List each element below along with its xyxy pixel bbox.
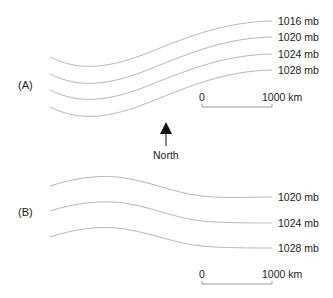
panel-b-label: (B) <box>18 206 33 218</box>
scale-end-label: 1000 km <box>262 268 302 280</box>
isobar-label: 1024 mb <box>278 217 319 229</box>
isobar-b-1024 <box>50 202 272 223</box>
scale-bar-b <box>202 281 272 284</box>
scale-end-label: 1000 km <box>262 91 302 103</box>
isobar-label: 1028 mb <box>278 242 319 254</box>
isobar-b-1020 <box>50 176 272 197</box>
isobar-label: 1020 mb <box>278 31 319 43</box>
scale-bar-a <box>202 104 272 107</box>
isobar-label: 1016 mb <box>278 15 319 27</box>
scale-start-label: 0 <box>199 91 205 103</box>
isobar-a-1028 <box>50 70 272 116</box>
panel-b-isobars <box>50 176 272 248</box>
isobar-label: 1020 mb <box>278 191 319 203</box>
panel-a-label: (A) <box>18 79 33 91</box>
isobar-label: 1028 mb <box>278 64 319 76</box>
isobar-a-1024 <box>50 54 272 99</box>
isobar-label: 1024 mb <box>278 48 319 60</box>
north-label: North <box>153 149 179 161</box>
isobar-a-1020 <box>50 37 272 83</box>
scale-start-label: 0 <box>199 268 205 280</box>
north-arrow-icon <box>160 122 172 146</box>
isobar-a-1016 <box>50 21 272 66</box>
panel-a-isobars <box>50 21 272 116</box>
isobar-b-1028 <box>50 227 272 248</box>
